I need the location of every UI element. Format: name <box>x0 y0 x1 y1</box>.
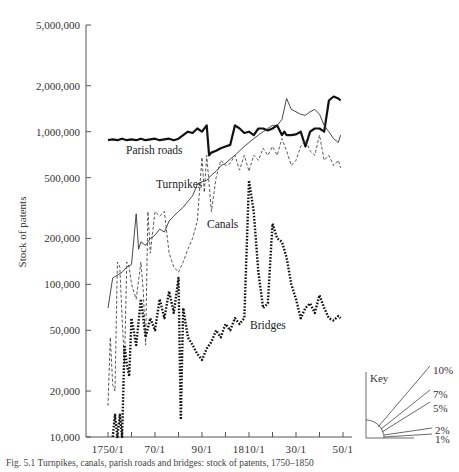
y-tick-label: 200,000 <box>44 232 80 244</box>
x-tick-label: 30/1 <box>286 443 307 455</box>
label-turnpikes: Turnpikes <box>156 178 203 191</box>
y-axis-title: Stock of patents <box>16 197 28 268</box>
key-rate-label: 1% <box>435 433 450 445</box>
x-axis: 1750/170/190/11810/130/150/1 <box>86 432 353 455</box>
y-tick-label: 1,000,000 <box>36 126 81 138</box>
key-rate-label: 5% <box>433 402 448 414</box>
key-rate-label: 10% <box>433 364 453 376</box>
x-tick-label: 70/1 <box>145 443 166 455</box>
label-bridges: Bridges <box>250 319 286 332</box>
series-canals <box>108 135 341 406</box>
y-tick-label: 500,000 <box>44 172 80 184</box>
key-rate-label: 7% <box>433 388 448 400</box>
x-tick-label: 90/1 <box>192 443 213 455</box>
key-title: Key <box>370 372 389 384</box>
y-tick-label: 10,000 <box>50 431 81 443</box>
figure-caption: Fig. 5.1 Turnpikes, canals, parish roads… <box>6 458 314 468</box>
y-axis: 5,000,0002,000,0001,000,000500,000200,00… <box>36 19 91 443</box>
growth-rate-key: Key 10%7%5%2%1% <box>366 364 453 445</box>
label-parish-roads: Parish roads <box>126 144 183 156</box>
x-tick-label: 50/1 <box>333 443 354 455</box>
y-tick-label: 50,000 <box>50 324 81 336</box>
y-tick-label: 5,000,000 <box>36 19 81 31</box>
label-canals: Canals <box>207 218 239 230</box>
series-turnpikes <box>108 99 341 309</box>
y-tick-label: 2,000,000 <box>36 80 81 92</box>
y-tick-label: 20,000 <box>50 385 81 397</box>
y-tick-label: 100,000 <box>44 278 80 290</box>
x-tick-label: 1810/1 <box>233 443 265 455</box>
chart: 5,000,0002,000,0001,000,000500,000200,00… <box>0 0 459 472</box>
x-tick-label: 1750/1 <box>92 443 124 455</box>
